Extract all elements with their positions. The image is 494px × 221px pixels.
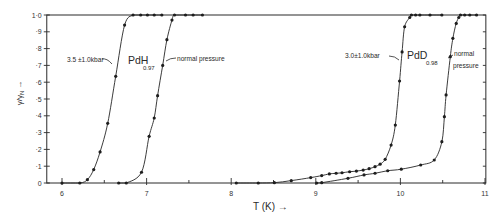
data-point (184, 13, 187, 16)
data-point (165, 38, 168, 41)
data-point (335, 172, 338, 175)
data-point (419, 163, 422, 166)
series-0 (60, 13, 163, 184)
y-tick-label: ·1 (36, 163, 42, 170)
y-tick-label: 0 (38, 180, 42, 187)
data-point (384, 158, 387, 161)
data-point (309, 176, 312, 179)
x-tick-label: 6 (60, 190, 64, 197)
data-point (139, 13, 142, 16)
data-point (235, 181, 238, 184)
y-axis-label-arrow: → (15, 81, 24, 89)
data-point (373, 172, 376, 175)
data-point (273, 181, 276, 184)
data-point (320, 174, 323, 177)
data-point (257, 181, 260, 184)
y-tick-label: ·8 (36, 45, 42, 52)
data-point (410, 13, 413, 16)
axes: 678910110·1·2·3·4·5·6·7·8·91·0 (32, 12, 489, 198)
annotation-pdd-normal-line1: normal (454, 50, 475, 57)
plot-frame (47, 15, 486, 183)
series-line-0 (62, 15, 162, 183)
data-point (201, 13, 204, 16)
data-point (98, 150, 101, 153)
data-point (315, 181, 318, 184)
annotation-pdh-normal: normal pressure (177, 55, 225, 63)
data-point (160, 13, 163, 16)
data-point (418, 13, 421, 16)
y-tick-label: ·6 (36, 79, 42, 86)
data-point (440, 13, 443, 16)
data-point (355, 169, 358, 172)
data-point (389, 143, 392, 146)
data-point (117, 181, 120, 184)
data-point (125, 181, 128, 184)
chart: 678910110·1·2·3·4·5·6·7·8·91·0 T (K) → γ… (0, 0, 494, 221)
data-point (114, 75, 117, 78)
data-point (362, 168, 365, 171)
series-1 (117, 13, 204, 184)
data-point (156, 94, 159, 97)
annotation-pdd-compound: PdD (407, 49, 428, 61)
data-point (468, 13, 471, 16)
data-point (106, 122, 109, 125)
x-tick-label: 9 (314, 190, 318, 197)
data-point (400, 168, 403, 171)
data-point (78, 181, 81, 184)
series-layer (60, 13, 478, 184)
data-point (433, 158, 436, 161)
series-line-2 (236, 15, 442, 183)
annotation-pdd-normal-line2: pressure (453, 62, 479, 70)
data-point (475, 13, 478, 16)
series-line-3 (317, 15, 477, 183)
x-tick-label: 11 (481, 190, 488, 197)
data-point (328, 172, 331, 175)
annotation-pdh-subscript: 0.97 (143, 65, 155, 71)
series-3 (315, 13, 478, 184)
data-point (346, 177, 349, 180)
annotation-pdh-pressure: 3.5 ±1.0kbar (67, 56, 104, 63)
y-axis-label-subscript: N (19, 91, 25, 95)
data-point (60, 181, 63, 184)
data-point (367, 167, 370, 170)
y-axis-label: γ/γN→ (15, 81, 25, 106)
x-tick-label: 10 (397, 190, 405, 197)
data-point (459, 13, 462, 16)
data-point (320, 181, 323, 184)
data-point (146, 13, 149, 16)
data-point (463, 13, 466, 16)
data-point (378, 163, 381, 166)
y-tick-label: ·3 (36, 129, 42, 136)
data-point (131, 13, 134, 16)
data-point (148, 135, 151, 138)
data-point (455, 22, 458, 25)
data-point (403, 25, 406, 28)
y-tick-label: ·7 (36, 62, 42, 69)
data-point (123, 23, 126, 26)
leader-line-pdd-pressure (389, 56, 399, 60)
data-point (92, 168, 95, 171)
data-point (451, 37, 454, 40)
y-tick-label: ·2 (36, 146, 42, 153)
data-point (373, 165, 376, 168)
x-tick-label: 8 (229, 190, 233, 197)
data-point (170, 18, 173, 21)
labels: T (K) → γ/γN→ 3.5 ±1.0kbar PdH 0.97 norm… (15, 49, 479, 212)
y-tick-label: ·9 (36, 28, 42, 35)
data-point (362, 173, 365, 176)
data-point (290, 179, 293, 182)
y-tick-label: 1·0 (32, 12, 42, 19)
data-point (444, 93, 447, 96)
data-point (414, 13, 417, 16)
data-point (394, 123, 397, 126)
data-point (153, 13, 156, 16)
data-point (428, 13, 431, 16)
data-point (340, 171, 343, 174)
data-point (153, 116, 156, 119)
data-point (348, 170, 351, 173)
y-tick-label: ·4 (36, 112, 42, 119)
data-point (386, 169, 389, 172)
data-point (140, 171, 143, 174)
series-line-1 (119, 15, 203, 183)
data-point (400, 50, 403, 53)
